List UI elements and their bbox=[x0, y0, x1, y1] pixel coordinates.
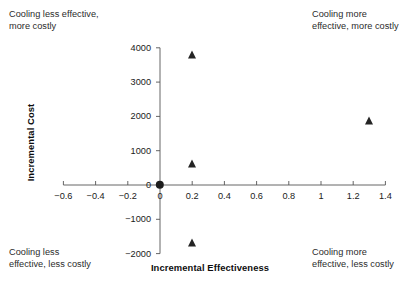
x-tick-label: 1 bbox=[318, 191, 323, 201]
data-point-triangle bbox=[188, 50, 196, 58]
y-tick-label: −1000 bbox=[0, 214, 151, 224]
x-tick-label: 0.2 bbox=[186, 191, 199, 201]
x-tick-label: 0 bbox=[157, 191, 162, 201]
x-tick-label: −0.2 bbox=[119, 191, 137, 201]
x-tick-label: 0.8 bbox=[282, 191, 295, 201]
y-tick-label: 0 bbox=[0, 180, 151, 190]
x-tick-label: 1.2 bbox=[347, 191, 360, 201]
y-tick-label: 3000 bbox=[0, 77, 151, 87]
y-tick-label: 1000 bbox=[0, 146, 151, 156]
data-point-triangle bbox=[188, 238, 196, 246]
data-point-triangle bbox=[365, 116, 373, 124]
x-tick-label: 0.4 bbox=[218, 191, 231, 201]
data-point-triangle bbox=[188, 159, 196, 167]
x-tick-label: 0.6 bbox=[250, 191, 263, 201]
y-tick-label: 2000 bbox=[0, 111, 151, 121]
cost-effectiveness-plane-chart: Cooling less effective, more costly Cool… bbox=[0, 0, 420, 300]
y-tick-label: −2000 bbox=[0, 249, 151, 259]
y-tick-label: 4000 bbox=[0, 43, 151, 53]
x-tick-label: −0.6 bbox=[54, 191, 72, 201]
x-tick-label: −0.4 bbox=[87, 191, 105, 201]
x-tick-label: 1.4 bbox=[379, 191, 392, 201]
